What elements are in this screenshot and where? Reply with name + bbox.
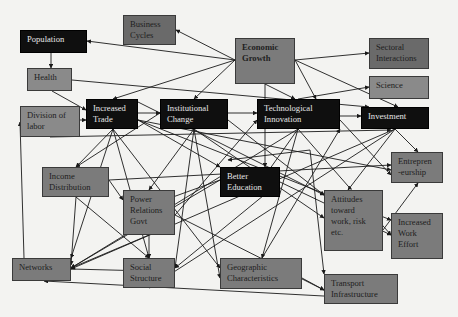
edge-arrow <box>109 180 123 200</box>
growth-determinants-diagram: PopulationBusinessCyclesEconomicGrowthSe… <box>0 0 458 317</box>
node-label: Entrepren <box>398 156 442 167</box>
node-label: Health <box>34 72 71 83</box>
node-social-structure: SocialStructure <box>123 258 175 288</box>
node-label: Sectoral <box>376 42 428 53</box>
node-entrepreneurship: Entrepren-eurship <box>391 152 443 183</box>
node-label: Infrastructure <box>331 289 397 300</box>
node-label: labor <box>27 121 79 132</box>
node-sectoral-interactions: SectoralInteractions <box>369 38 429 69</box>
node-label: Increased <box>93 103 137 114</box>
node-label: Change <box>167 114 227 125</box>
edge-arrow <box>71 197 76 265</box>
node-label: Better <box>227 171 279 182</box>
node-increased-work-effort: IncreasedWorkEffort <box>391 213 443 259</box>
node-label: Science <box>376 80 428 91</box>
node-science: Science <box>369 76 429 99</box>
node-label: Increased <box>398 217 442 228</box>
node-networks: Networks <box>12 258 71 281</box>
node-label: Distribution <box>49 182 108 193</box>
node-label: Business <box>130 19 175 30</box>
node-investment: Investment <box>361 107 429 129</box>
node-technological-innovation: TechnologicalInnovation <box>257 99 340 129</box>
node-label: Population <box>27 34 86 45</box>
node-label: Geographic <box>227 262 301 273</box>
node-label: Income <box>49 171 108 182</box>
edge-arrow <box>76 129 113 167</box>
node-label: Cycles <box>130 30 175 41</box>
node-label: Institutional <box>167 103 227 114</box>
node-label: toward <box>331 205 382 216</box>
node-label: Effort <box>398 239 442 250</box>
node-income-distribution: IncomeDistribution <box>42 167 109 197</box>
edge-arrow <box>295 60 316 99</box>
node-label: Technological <box>264 103 339 114</box>
node-division-of-labor: Division oflabor <box>20 106 80 137</box>
node-label: Growth <box>242 53 294 64</box>
edge-arrow <box>395 129 418 152</box>
node-label: work, risk <box>331 216 382 227</box>
node-label: Investment <box>368 111 428 122</box>
node-label: Characteristics <box>227 273 301 284</box>
edge-arrow <box>20 122 24 258</box>
edge-arrow <box>71 129 298 268</box>
node-label: Relations <box>130 205 174 216</box>
node-attitudes: Attitudestowardwork, risketc. <box>324 190 383 251</box>
node-business-cycles: BusinessCycles <box>123 15 176 45</box>
node-better-education: BetterEducation <box>220 167 280 197</box>
node-geographic-characteristics: GeographicCharacteristics <box>220 258 302 289</box>
node-label: Division of <box>27 110 79 121</box>
node-institutional-change: InstitutionalChange <box>160 99 228 129</box>
node-label: Attitudes <box>331 194 382 205</box>
edge-arrow <box>298 87 369 99</box>
node-label: Work <box>398 228 442 239</box>
node-population: Population <box>20 30 87 53</box>
node-label: Trade <box>93 114 137 125</box>
node-label: Networks <box>19 262 70 273</box>
node-label: Interactions <box>376 53 428 64</box>
node-label: Economic <box>242 42 294 53</box>
node-label: Education <box>227 182 279 193</box>
edge-arrow <box>348 129 395 190</box>
node-health: Health <box>27 68 72 91</box>
node-label: Transport <box>331 278 397 289</box>
node-label: Innovation <box>264 114 339 125</box>
node-label: -eurship <box>398 167 442 178</box>
node-transport-infrastructure: TransportInfrastructure <box>324 274 398 304</box>
node-label: Social <box>130 262 174 273</box>
node-economic-growth: EconomicGrowth <box>235 38 295 84</box>
edge-arrow <box>176 30 235 60</box>
edge-arrow <box>302 278 324 290</box>
node-increased-trade: IncreasedTrade <box>86 99 138 129</box>
node-label: Power <box>130 194 174 205</box>
node-label: Structure <box>130 273 174 284</box>
edge-arrow <box>265 84 295 99</box>
node-label: Govt <box>130 216 174 227</box>
node-power-relations-govt: PowerRelationsGovt <box>123 190 175 235</box>
node-label: etc. <box>331 227 382 238</box>
edge-arrow <box>295 53 369 60</box>
